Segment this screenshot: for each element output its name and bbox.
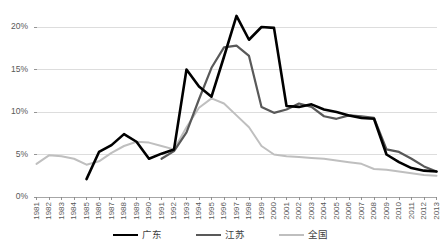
- x-axis-tick-label: 1999: [258, 202, 266, 220]
- x-axis-tick-label: 1983: [58, 202, 66, 220]
- legend-label: 全国: [308, 230, 328, 240]
- x-axis-tick-label: 1981: [33, 202, 41, 220]
- x-axis-tick-label: 2010: [395, 202, 403, 220]
- x-axis-tick-label: 2006: [345, 202, 353, 220]
- x-axis-tick-label: 2007: [358, 202, 366, 220]
- line-chart: 0%5%10%15%20% 19811982198319841985198619…: [0, 0, 441, 245]
- x-axis-tick-label: 1996: [220, 202, 228, 220]
- legend-label: 江苏: [225, 230, 245, 240]
- x-axis-tick-label: 2008: [370, 202, 378, 220]
- x-axis-tick-label: 1993: [183, 202, 191, 220]
- y-axis-tick-label: 0%: [0, 192, 28, 201]
- x-axis-tick-label: 2001: [283, 202, 291, 220]
- legend-item[interactable]: 全国: [279, 230, 328, 240]
- x-axis-tick-label: 2000: [270, 202, 278, 220]
- x-axis-tick-label: 1998: [245, 202, 253, 220]
- x-axis-tick-label: 1989: [133, 202, 141, 220]
- legend-item[interactable]: 广东: [113, 230, 162, 240]
- x-axis-tick-label: 1986: [95, 202, 103, 220]
- gridlines: [37, 27, 437, 197]
- series-line: [162, 46, 437, 172]
- x-axis-tick-label: 1997: [233, 202, 241, 220]
- x-axis-tick-label: 1995: [208, 202, 216, 220]
- x-axis-tick-label: 1985: [83, 202, 91, 220]
- x-axis-tick-label: 2013: [433, 202, 441, 220]
- x-axis-tick-label: 2003: [308, 202, 316, 220]
- x-axis-tick-label: 1982: [45, 202, 53, 220]
- x-axis-tick-label: 1987: [108, 202, 116, 220]
- x-axis-tick-label: 2009: [383, 202, 391, 220]
- legend-item[interactable]: 江苏: [196, 230, 245, 240]
- x-axis-tick-label: 1992: [170, 202, 178, 220]
- x-axis-tick-label: 2005: [333, 202, 341, 220]
- series-line: [37, 98, 437, 175]
- legend-swatch-line-icon: [196, 234, 221, 236]
- y-axis-tick-label: 10%: [0, 107, 28, 116]
- x-axis-tick-label: 1984: [70, 202, 78, 220]
- x-axis-tick-label: 1994: [195, 202, 203, 220]
- x-axis-tick-label: 1990: [145, 202, 153, 220]
- x-axis-tick-label: 2011: [408, 202, 416, 219]
- x-axis-tick-label: 2004: [320, 202, 328, 220]
- y-axis-tick-label: 20%: [0, 22, 28, 31]
- legend-label: 广东: [142, 230, 162, 240]
- legend-swatch-line-icon: [279, 234, 304, 236]
- y-axis-tick-label: 15%: [0, 65, 28, 74]
- x-axis-tick-label: 2002: [295, 202, 303, 220]
- chart-legend: 广东江苏全国: [0, 225, 441, 245]
- x-axis-tick-label: 1991: [158, 202, 166, 220]
- legend-swatch-line-icon: [113, 234, 138, 236]
- x-axis-tick-label: 1988: [120, 202, 128, 220]
- y-axis-tick-label: 5%: [0, 150, 28, 159]
- x-axis-tick-label: 2012: [420, 202, 428, 220]
